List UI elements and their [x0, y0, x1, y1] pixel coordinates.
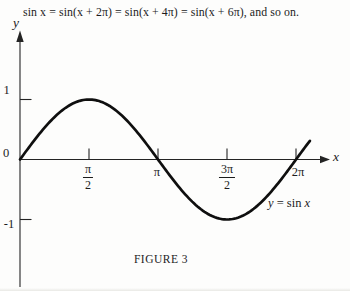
curve-label-x: x [305, 196, 311, 210]
fraction-denominator: 2 [224, 178, 230, 192]
x-axis-label: x [333, 150, 339, 164]
sine-plot [0, 0, 350, 291]
curve-label-eq-sin: = sin [274, 196, 305, 210]
curve-equation-label: y = sin x [268, 196, 310, 211]
x-tick-label-pi: π [154, 166, 160, 179]
y-tick-label-1: 1 [0, 84, 13, 97]
x-tick-label-2pi: 2π [292, 166, 305, 179]
x-tick-label-3pi-over-2: 3π 2 [219, 163, 235, 191]
textbook-figure-page: sin x = sin(x + 2π) = sin(x + 4π) = sin(… [0, 0, 350, 291]
y-tick-label-neg1: -1 [0, 218, 18, 231]
fraction-numerator: 3π [219, 163, 235, 178]
origin-label: 0 [3, 147, 9, 160]
figure-caption: FIGURE 3 [134, 253, 188, 265]
x-tick-label-pi-over-2: π 2 [83, 163, 93, 191]
fraction-denominator: 2 [85, 178, 91, 192]
fraction-numerator: π [83, 163, 93, 178]
